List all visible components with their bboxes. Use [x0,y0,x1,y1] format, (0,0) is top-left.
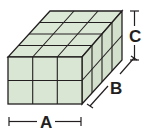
label-b: B [110,79,122,98]
label-a: A [40,113,52,132]
label-c: C [129,27,141,46]
prism-diagram: A B C [0,0,149,132]
